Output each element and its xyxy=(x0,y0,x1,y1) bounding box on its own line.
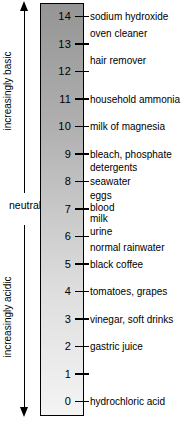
tick-mark xyxy=(75,71,89,73)
substance-label-line: black coffee xyxy=(90,258,143,271)
substance-label: black coffee xyxy=(90,258,143,271)
substance-label: oven cleaner xyxy=(90,27,147,40)
tick-mark xyxy=(75,126,89,128)
tick-label: 5 xyxy=(49,258,71,271)
increasingly-acidic-label: increasingly acidic xyxy=(2,257,14,377)
substance-label: hair remover xyxy=(90,54,146,67)
tick-mark xyxy=(75,318,89,320)
down-arrow-line xyxy=(24,225,26,407)
tick-label: 10 xyxy=(49,120,71,133)
substance-label-line: household ammonia xyxy=(90,93,180,106)
substance-label-line: vinegar, soft drinks xyxy=(90,313,173,326)
tick-label: 8 xyxy=(49,175,71,188)
substance-label-line: oven cleaner xyxy=(90,27,147,40)
increasingly-basic-label: increasingly basic xyxy=(2,31,14,151)
substance-label-line: milk of magnesia xyxy=(90,120,165,133)
tick-mark xyxy=(75,181,89,183)
tick-mark xyxy=(75,346,89,348)
tick-mark xyxy=(75,43,89,45)
tick-label: 14 xyxy=(49,10,71,23)
substance-label-line: hair remover xyxy=(90,54,146,67)
tick-mark xyxy=(75,373,89,375)
tick-label: 6 xyxy=(49,230,71,243)
neutral-label: neutral xyxy=(9,199,41,211)
tick-mark xyxy=(75,16,89,18)
substance-label-line: eggs xyxy=(90,189,112,202)
substance-label-line: detergents xyxy=(90,161,172,174)
substance-label-line: sodium hydroxide xyxy=(90,10,168,23)
tick-mark xyxy=(75,98,89,100)
tick-label: 12 xyxy=(49,65,71,78)
tick-label: 3 xyxy=(49,313,71,326)
down-arrow-icon xyxy=(20,407,28,417)
tick-mark xyxy=(75,401,89,403)
substance-label-line: seawater xyxy=(90,175,131,188)
substance-label: household ammonia xyxy=(90,93,180,106)
substance-label-line: normal rainwater xyxy=(90,241,164,254)
substance-label-line: hydrochloric acid xyxy=(90,395,165,408)
up-arrow-line xyxy=(24,10,26,193)
tick-mark xyxy=(75,291,89,293)
substance-label: sodium hydroxide xyxy=(90,10,168,23)
tick-label: 13 xyxy=(49,38,71,51)
tick-mark xyxy=(75,236,89,238)
substance-label-line: milk xyxy=(90,212,108,225)
substance-label: eggs xyxy=(90,189,112,202)
ph-scale-diagram: increasingly basic neutral increasingly … xyxy=(0,0,183,427)
tick-mark xyxy=(75,263,89,265)
tick-mark xyxy=(75,153,89,155)
substance-label-line: gastric juice xyxy=(90,340,143,353)
substance-label: normal rainwater xyxy=(90,241,164,254)
tick-label: 2 xyxy=(49,340,71,353)
substance-label: hydrochloric acid xyxy=(90,395,165,408)
substance-label: tomatoes, grapes xyxy=(90,285,167,298)
tick-label: 9 xyxy=(49,148,71,161)
substance-label: bleach, phosphatedetergents xyxy=(90,148,172,174)
tick-label: 7 xyxy=(49,203,71,216)
tick-mark xyxy=(75,208,89,210)
tick-label: 0 xyxy=(49,395,71,408)
substance-label: vinegar, soft drinks xyxy=(90,313,173,326)
substance-label: milk xyxy=(90,212,108,225)
substance-label: gastric juice xyxy=(90,340,143,353)
tick-label: 4 xyxy=(49,285,71,298)
substance-label: milk of magnesia xyxy=(90,120,165,133)
substance-label: seawater xyxy=(90,175,131,188)
tick-label: 11 xyxy=(49,93,71,106)
substance-label: urine xyxy=(90,225,112,238)
substance-label-line: tomatoes, grapes xyxy=(90,285,167,298)
tick-label: 1 xyxy=(49,368,71,381)
substance-label-line: urine xyxy=(90,225,112,238)
substance-label-line: bleach, phosphate xyxy=(90,148,172,161)
